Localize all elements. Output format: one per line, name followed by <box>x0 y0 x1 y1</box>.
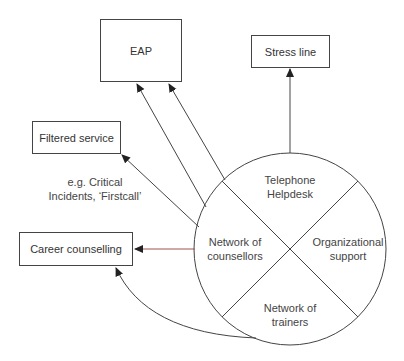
eap-box: EAP <box>100 19 182 82</box>
segment-bottom-line-2: trainers <box>250 315 330 329</box>
eap-label: EAP <box>130 45 152 57</box>
arrow-to-eap-2 <box>169 84 225 180</box>
segment-telephone-helpdesk: Telephone Helpdesk <box>250 173 330 201</box>
segment-top-line-1: Telephone <box>250 173 330 187</box>
segment-bottom-line-1: Network of <box>250 301 330 315</box>
segment-right-line-1: Organizational <box>308 235 388 249</box>
stress-line-box: Stress line <box>251 35 330 68</box>
segment-top-line-2: Helpdesk <box>250 187 330 201</box>
segment-right-line-2: support <box>308 249 388 263</box>
segment-network-of-counsellors: Network of counsellors <box>200 235 270 263</box>
stress-line-label: Stress line <box>265 46 316 58</box>
filtered-service-label: Filtered service <box>39 132 114 144</box>
annotation-line-1: e.g. Critical <box>40 175 150 189</box>
segment-left-line-1: Network of <box>200 235 270 249</box>
annotation-critical-incidents: e.g. Critical Incidents, ‘Firstcall’ <box>40 175 150 203</box>
filtered-service-box: Filtered service <box>32 121 121 154</box>
career-counselling-box: Career counselling <box>19 232 133 266</box>
segment-organizational-support: Organizational support <box>308 235 388 263</box>
career-counselling-label: Career counselling <box>30 243 122 255</box>
annotation-line-2: Incidents, ‘Firstcall’ <box>40 189 150 203</box>
segment-network-of-trainers: Network of trainers <box>250 301 330 329</box>
segment-left-line-2: counsellors <box>200 249 270 263</box>
